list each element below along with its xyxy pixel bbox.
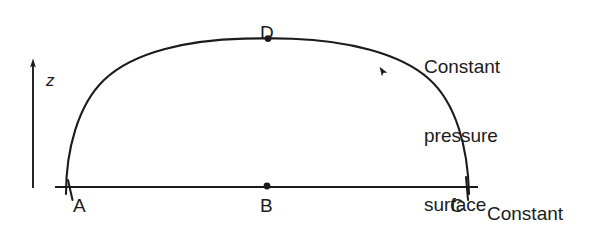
- flow-direction-arrowhead-icon: [377, 65, 388, 76]
- constant-height-surface-label-line-1: Constant: [487, 202, 563, 225]
- constant-height-surface-label: Constant height surface: [487, 156, 563, 229]
- vertical-height-axis: [30, 59, 36, 189]
- point-d-label: D: [260, 23, 274, 42]
- point-b-marker: [264, 183, 271, 190]
- point-a-label: A: [73, 196, 86, 215]
- diagram-canvas: z A B C D Constant pressure surface Cons…: [0, 0, 606, 229]
- constant-pressure-surface-curve: [66, 38, 469, 194]
- point-a-marker: [68, 180, 73, 200]
- z-axis-label: z: [46, 72, 55, 89]
- constant-pressure-surface-label-line-2: pressure: [424, 124, 500, 147]
- point-b-label: B: [260, 196, 273, 215]
- constant-pressure-surface-label-line-1: Constant: [424, 55, 500, 78]
